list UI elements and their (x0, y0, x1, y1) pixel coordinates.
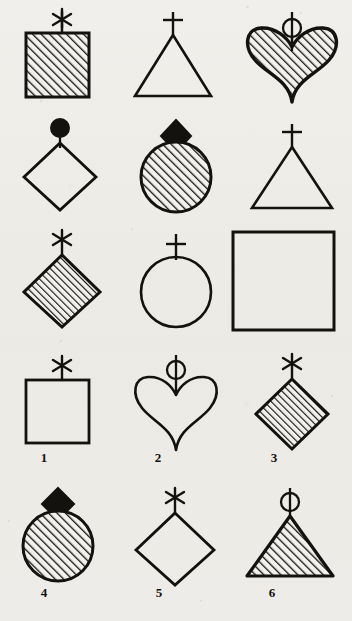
shape-diamond-hatched (24, 255, 100, 327)
option-label-3: 3 (254, 450, 294, 466)
puzzle-figure: 1 2 3 4 5 6 (0, 0, 352, 621)
option-label-4: 4 (24, 585, 64, 601)
finial-asterisk (283, 354, 301, 380)
finial-cross (282, 124, 302, 148)
option-6-shape[interactable] (240, 484, 345, 584)
option-label-6: 6 (252, 585, 292, 601)
option-2-shape[interactable] (123, 350, 233, 455)
option-1-shape[interactable] (12, 350, 112, 450)
finial-circle (281, 488, 299, 518)
option-label-2: 2 (138, 450, 178, 466)
shape-diamond-hatched (256, 379, 328, 449)
finial-filled-circle (51, 119, 69, 137)
shape-square-outline (233, 232, 334, 330)
option-4-shape[interactable] (10, 484, 120, 584)
matrix-cell-r2c3 (240, 114, 345, 214)
shape-diamond-outline (24, 143, 96, 210)
paper-speckle (60, 340, 62, 342)
finial-circle (167, 355, 185, 394)
option-5-shape[interactable] (122, 484, 232, 589)
shape-square-outline (26, 380, 89, 443)
paper-speckle (200, 600, 202, 602)
matrix-cell-r2c2 (123, 114, 233, 214)
option-3-shape[interactable] (240, 350, 345, 455)
option-label-1: 1 (24, 450, 64, 466)
matrix-cell-r1c3 (237, 6, 347, 106)
shape-square-hatched (26, 33, 89, 97)
finial-asterisk (53, 230, 71, 256)
matrix-cell-r1c2 (123, 6, 223, 106)
shape-triangle-hatched (247, 516, 333, 576)
matrix-cell-r3c3 (230, 229, 345, 334)
shape-circle-hatched (23, 511, 93, 581)
shape-triangle-outline (135, 35, 211, 96)
shape-diamond-outline (136, 513, 214, 585)
shape-circle-hatched (141, 142, 211, 212)
finial-asterisk (53, 9, 71, 34)
finial-cross (163, 12, 183, 36)
matrix-cell-r1c1 (12, 6, 112, 106)
matrix-cell-r3c1 (14, 226, 114, 331)
shape-triangle-outline (252, 147, 332, 208)
matrix-cell-r2c1 (12, 114, 112, 214)
shape-circle-outline (141, 257, 211, 327)
finial-asterisk (166, 488, 184, 514)
matrix-cell-r3c2 (123, 226, 233, 331)
option-label-5: 5 (139, 585, 179, 601)
finial-asterisk (53, 356, 71, 380)
